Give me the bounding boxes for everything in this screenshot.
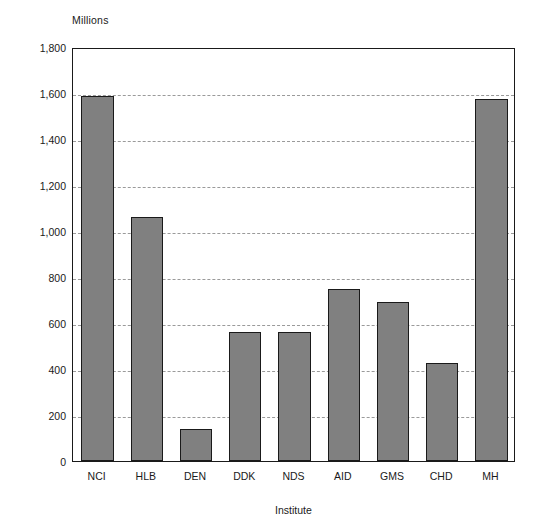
bar-nci [81, 96, 113, 461]
y-axis-tick-label: 1,200 [4, 180, 66, 192]
y-axis-unit-caption: Millions [72, 14, 109, 26]
y-axis-tick-labels: 02004006008001,0001,2001,4001,6001,800 [0, 48, 66, 462]
x-axis-tick-label-ddk: DDK [233, 470, 255, 482]
x-axis-tick-label-hlb: HLB [136, 470, 156, 482]
bar-hlb [131, 217, 163, 461]
x-axis-tick-label-aid: AID [334, 470, 352, 482]
y-axis-tick-label: 200 [4, 410, 66, 422]
y-axis-tick-label: 1,000 [4, 226, 66, 238]
bar-gms [377, 302, 409, 461]
bar-nds [278, 332, 310, 461]
y-axis-tick-label: 0 [4, 456, 66, 468]
y-axis-tick-label: 600 [4, 318, 66, 330]
x-axis-tick-label-den: DEN [184, 470, 206, 482]
bar-aid [328, 289, 360, 462]
y-axis-tick-label: 800 [4, 272, 66, 284]
x-axis-tick-label-nci: NCI [88, 470, 106, 482]
y-axis-tick-label: 1,400 [4, 134, 66, 146]
x-axis-tick-label-nds: NDS [282, 470, 304, 482]
bar-den [180, 429, 212, 461]
x-axis-tick-labels: NCIHLBDENDDKNDSAIDGMSCHDMH [72, 470, 515, 488]
y-axis-tick-label: 1,800 [4, 42, 66, 54]
bar-chd [426, 363, 458, 461]
x-axis-tick-label-chd: CHD [430, 470, 453, 482]
bar-mh [475, 99, 507, 461]
bars-layer [73, 49, 514, 461]
y-axis-tick-label: 1,600 [4, 88, 66, 100]
x-axis-title: Institute [72, 504, 515, 516]
bar-ddk [229, 332, 261, 461]
y-axis-tick-label: 400 [4, 364, 66, 376]
x-axis-tick-label-mh: MH [482, 470, 498, 482]
x-axis-tick-label-gms: GMS [380, 470, 404, 482]
plot-area [72, 48, 515, 462]
bar-chart-figure: Millions 02004006008001,0001,2001,4001,6… [0, 0, 539, 529]
